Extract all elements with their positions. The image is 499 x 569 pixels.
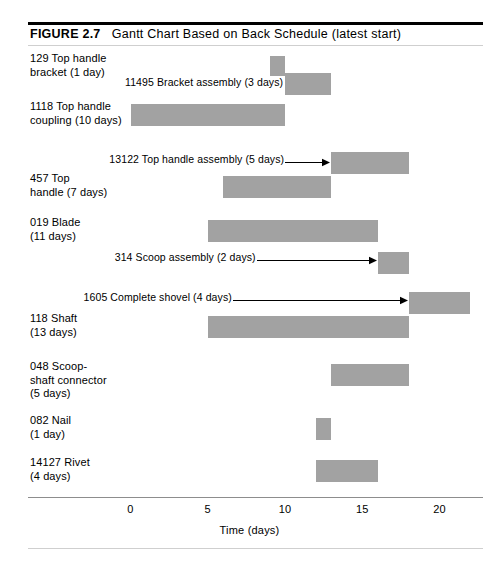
gantt-bar[interactable] [270,56,285,78]
x-axis-title: Time (days) [0,524,499,536]
gantt-bar[interactable] [223,176,331,198]
task-side-label: 457 Top handle (7 days) [30,172,107,199]
task-side-label: 082 Nail (1 day) [30,414,71,441]
dependency-arrow-icon [257,255,379,266]
figure-page: FIGURE 2.7 Gantt Chart Based on Back Sch… [0,0,499,569]
gantt-bar[interactable] [208,220,378,242]
gantt-bar[interactable] [208,316,409,338]
gantt-chart-plot: 129 Top handle bracket (1 day)11495 Brac… [0,0,499,569]
task-side-label: 1118 Top handle coupling (10 days) [30,100,122,127]
task-side-label: 14127 Rivet (4 days) [30,456,90,483]
gantt-bar[interactable] [409,292,471,314]
task-side-label: 129 Top handle bracket (1 day) [30,52,106,79]
gantt-bar[interactable] [378,252,409,274]
task-inline-label: 13122 Top handle assembly (5 days) [109,153,286,166]
dependency-arrow-icon [233,295,410,306]
gantt-bar[interactable] [316,460,378,482]
gantt-bar[interactable] [285,73,331,95]
dependency-arrow-icon [285,157,332,168]
figure-bottom-rule [28,548,483,549]
task-side-label: 048 Scoop- shaft connector (5 days) [30,360,107,401]
gantt-bar[interactable] [316,418,331,440]
task-inline-label: 11495 Bracket assembly (3 days) [125,76,285,89]
gantt-bar[interactable] [331,364,408,386]
gantt-bar[interactable] [331,152,408,174]
x-axis-tick-label: 20 [433,503,446,515]
x-axis-tick-label: 10 [279,503,292,515]
task-side-label: 019 Blade (11 days) [30,216,80,243]
task-inline-label: 314 Scoop assembly (2 days) [115,251,258,264]
x-axis-tick-label: 15 [356,503,369,515]
gantt-bar[interactable] [131,104,286,126]
x-axis-line [28,497,483,498]
x-axis-tick-label: 0 [127,503,133,515]
x-axis-tick-label: 5 [205,503,211,515]
task-inline-label: 1605 Complete shovel (4 days) [84,291,234,304]
task-side-label: 118 Shaft (13 days) [30,312,77,339]
